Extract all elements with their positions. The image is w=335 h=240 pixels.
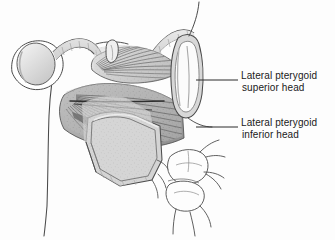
label-lateral-pterygoid-inferior-head: Lateral pterygoid inferior head xyxy=(241,117,317,140)
label-lateral-pterygoid-superior-head: Lateral pterygoid superior head xyxy=(241,70,317,93)
label-inferior-head-line1: Lateral pterygoid xyxy=(241,117,317,128)
vessel-cross-section xyxy=(106,40,118,63)
lateral-pterygoid-plate xyxy=(171,35,203,118)
label-superior-head-line1: Lateral pterygoid xyxy=(241,70,317,81)
label-superior-head-line2: superior head xyxy=(241,82,317,94)
label-inferior-head-line2: inferior head xyxy=(241,129,317,141)
articular-disc xyxy=(12,41,63,90)
